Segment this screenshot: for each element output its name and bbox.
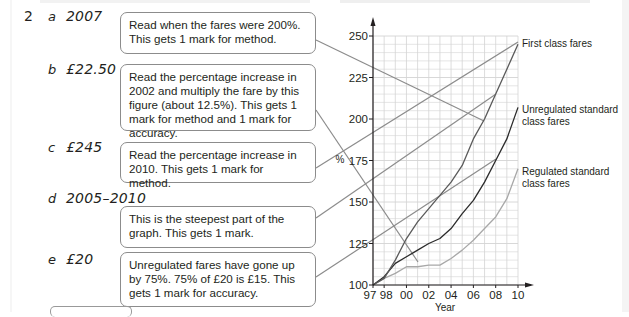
svg-text:200: 200 (349, 113, 368, 125)
svg-text:98: 98 (380, 289, 393, 301)
svg-text:175: 175 (349, 155, 368, 167)
svg-text:06: 06 (467, 289, 480, 301)
chart-axes: 1001251501752002252509798000204060810Yea… (336, 17, 534, 312)
svg-text:02: 02 (422, 289, 435, 301)
svg-text:00: 00 (400, 289, 413, 301)
svg-text:Year: Year (435, 302, 456, 312)
svg-text:10: 10 (512, 289, 525, 301)
series-line (373, 44, 518, 285)
svg-text:250: 250 (349, 30, 368, 42)
svg-text:150: 150 (349, 196, 368, 208)
svg-text:225: 225 (349, 72, 368, 84)
svg-text:04: 04 (445, 289, 458, 301)
legend-regulated-line2: class fares (522, 178, 570, 190)
legend-unregulated-line2: class fares (522, 116, 570, 128)
note-connectors (316, 40, 518, 277)
chart-series (373, 44, 518, 285)
legend-regulated-line1: Regulated standard (522, 166, 609, 178)
legend-first-class: First class fares (522, 38, 592, 50)
svg-text:97: 97 (364, 289, 377, 301)
series-line (373, 107, 518, 285)
svg-text:125: 125 (349, 238, 368, 250)
legend-unregulated-line1: Unregulated standard (522, 104, 618, 116)
svg-text:%: % (336, 154, 345, 165)
svg-text:08: 08 (489, 289, 502, 301)
